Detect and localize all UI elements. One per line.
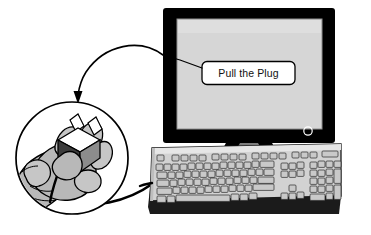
key-h[interactable] (210, 178, 217, 184)
key-f7[interactable] (230, 154, 237, 160)
key-numpad-9[interactable] (326, 169, 333, 175)
key-numpad-enter[interactable] (334, 185, 341, 199)
key-numpad-2[interactable] (318, 186, 325, 192)
key-f11[interactable] (270, 153, 277, 159)
key-numpad-subtract[interactable] (334, 161, 341, 167)
key-k[interactable] (226, 178, 233, 184)
key-n[interactable] (213, 186, 220, 192)
key-f[interactable] (194, 179, 201, 185)
key-numpad-8[interactable] (318, 170, 325, 176)
key-backtick[interactable] (156, 164, 163, 170)
key-i[interactable] (224, 170, 231, 176)
key-6[interactable] (204, 163, 211, 169)
key-alt-right[interactable] (231, 194, 239, 200)
key-f6[interactable] (221, 154, 228, 160)
computer-keyboard[interactable] (148, 144, 341, 214)
key-b[interactable] (205, 186, 212, 192)
key-numpad-decimal[interactable] (326, 193, 333, 199)
main-typing-area[interactable] (156, 161, 274, 202)
key-f3[interactable] (190, 155, 197, 161)
key-space-bar[interactable] (176, 195, 230, 201)
key-5[interactable] (196, 163, 203, 169)
key-f4[interactable] (199, 155, 206, 161)
key-ctrl-left[interactable] (157, 196, 166, 202)
key-arrow-up[interactable] (289, 185, 296, 191)
key-numpad-7[interactable] (310, 170, 317, 176)
key-f1[interactable] (172, 155, 179, 161)
key-bracket-left[interactable] (248, 169, 255, 175)
key-e[interactable] (184, 171, 191, 177)
key-numpad-divide[interactable] (318, 161, 325, 167)
key-arrow-left[interactable] (281, 193, 288, 199)
key-alt-left[interactable] (167, 196, 175, 202)
key-z[interactable] (173, 187, 180, 193)
key-quote[interactable] (250, 177, 257, 183)
key-2[interactable] (172, 164, 179, 170)
key-equals[interactable] (252, 161, 259, 167)
key-8[interactable] (220, 162, 227, 168)
key-period[interactable] (237, 185, 244, 191)
key-home[interactable] (289, 163, 296, 169)
key-ctrl-right[interactable] (249, 193, 257, 199)
key-9[interactable] (228, 162, 235, 168)
key-numpad-4[interactable] (310, 178, 317, 184)
key-q[interactable] (168, 172, 175, 178)
key-numpad-add[interactable] (334, 169, 341, 183)
key-o[interactable] (232, 170, 239, 176)
key-f5[interactable] (212, 154, 219, 160)
key-numpad-multiply[interactable] (326, 161, 333, 167)
key-insert[interactable] (281, 163, 288, 169)
key-enter[interactable] (258, 177, 274, 183)
key-arrow-right[interactable] (297, 192, 304, 198)
key-numpad-6[interactable] (326, 177, 333, 183)
key-v[interactable] (197, 187, 204, 193)
key-pause[interactable] (310, 152, 317, 158)
key-f2[interactable] (181, 155, 188, 161)
key-shift-right[interactable] (253, 184, 274, 190)
escape-key[interactable] (157, 155, 164, 161)
system-keys[interactable] (292, 152, 317, 158)
key-backspace[interactable] (260, 161, 274, 167)
key-backslash[interactable] (264, 169, 274, 175)
key-m[interactable] (221, 186, 228, 192)
key-arrow-down[interactable] (289, 193, 296, 199)
key-shift-left[interactable] (157, 188, 172, 194)
key-p[interactable] (240, 170, 247, 176)
key-numpad-3[interactable] (326, 185, 333, 191)
key-scroll-lock[interactable] (301, 152, 308, 158)
key-x[interactable] (181, 187, 188, 193)
key-1[interactable] (164, 164, 171, 170)
key-tab[interactable] (157, 172, 167, 178)
key-3[interactable] (180, 164, 187, 170)
key-comma[interactable] (229, 185, 236, 191)
key-g[interactable] (202, 179, 209, 185)
key-j[interactable] (218, 178, 225, 184)
key-caps-lock[interactable] (157, 180, 169, 186)
key-0[interactable] (236, 162, 243, 168)
key-numpad-1[interactable] (310, 186, 317, 192)
key-w[interactable] (176, 172, 183, 178)
key-a[interactable] (170, 180, 177, 186)
key-y[interactable] (208, 171, 215, 177)
key-4[interactable] (188, 163, 195, 169)
key-slash[interactable] (245, 185, 252, 191)
key-r[interactable] (192, 171, 199, 177)
key-t[interactable] (200, 171, 207, 177)
key-f8[interactable] (239, 154, 246, 160)
key-c[interactable] (189, 187, 196, 193)
key-delete[interactable] (281, 171, 288, 177)
key-minus[interactable] (244, 162, 251, 168)
key-f10[interactable] (261, 153, 268, 159)
key-u[interactable] (216, 170, 223, 176)
key-bracket-right[interactable] (256, 169, 263, 175)
screen-callout-box[interactable]: Pull the Plug (202, 62, 295, 85)
key-semicolon[interactable] (242, 177, 249, 183)
key-menu[interactable] (240, 194, 248, 200)
key-numpad-5[interactable] (318, 178, 325, 184)
navigation-cluster[interactable] (281, 162, 304, 177)
key-num-lock[interactable] (310, 162, 317, 168)
key-7[interactable] (212, 163, 219, 169)
key-l[interactable] (234, 177, 241, 183)
key-d[interactable] (186, 179, 193, 185)
key-page-up[interactable] (297, 162, 304, 168)
